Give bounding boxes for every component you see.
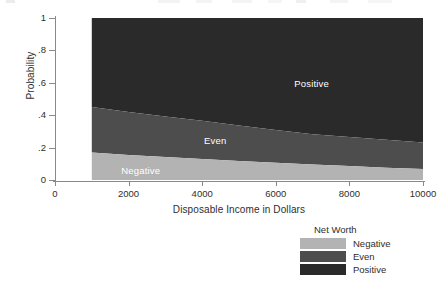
x-tick-0 <box>55 181 56 186</box>
legend-label-positive: Positive <box>353 264 386 275</box>
legend-swatch-even <box>300 251 346 262</box>
series-label-positive: Positive <box>294 78 329 89</box>
plot-frame: Positive Even Negative <box>55 18 423 180</box>
y-tick-label-06: .6 <box>2 78 46 88</box>
y-tick-label-08: .8 <box>2 46 46 56</box>
x-tick-2000 <box>129 181 130 186</box>
legend-label-even: Even <box>353 251 375 262</box>
x-tick-label-2000: 2000 <box>118 188 139 199</box>
x-tick-10000 <box>423 181 424 186</box>
legend-title: Net Worth <box>314 224 448 235</box>
legend-item-even[interactable]: Even <box>300 251 448 262</box>
series-label-even: Even <box>204 135 226 146</box>
x-tick-label-6000: 6000 <box>265 188 286 199</box>
x-tick-4000 <box>202 181 203 186</box>
legend-swatch-negative <box>300 238 346 249</box>
x-tick-label-8000: 8000 <box>339 188 360 199</box>
y-tick-label-0: 0 <box>2 175 46 185</box>
x-tick-label-0: 0 <box>52 188 57 199</box>
series-label-negative: Negative <box>121 165 160 176</box>
plot-area <box>55 18 423 180</box>
y-tick-label-04: .4 <box>2 110 46 120</box>
x-tick-8000 <box>349 181 350 186</box>
legend: Net Worth Negative Even Positive <box>300 224 448 277</box>
legend-label-negative: Negative <box>353 238 391 249</box>
y-tick-label-1: 1 <box>2 13 46 23</box>
x-tick-label-10000: 10000 <box>410 188 436 199</box>
x-tick-label-4000: 4000 <box>192 188 213 199</box>
legend-item-positive[interactable]: Positive <box>300 264 448 275</box>
top-edge-artifact <box>0 0 448 6</box>
x-tick-6000 <box>276 181 277 186</box>
stacked-area-svg <box>55 18 423 180</box>
legend-item-negative[interactable]: Negative <box>300 238 448 249</box>
chart-figure: Probability 1 .8 .6 .4 .2 0 0 2000 4000 … <box>0 0 448 291</box>
legend-swatch-positive <box>300 264 346 275</box>
y-tick-label-02: .2 <box>2 143 46 153</box>
x-axis-title: Disposable Income in Dollars <box>55 204 423 215</box>
x-axis-line <box>53 181 425 182</box>
